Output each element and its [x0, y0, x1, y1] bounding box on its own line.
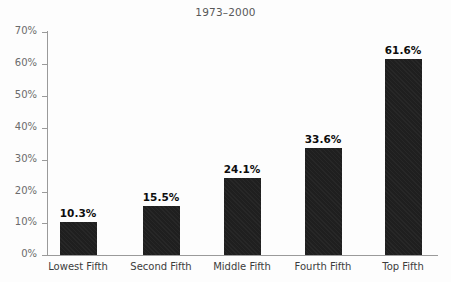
y-tick-mark-30 [42, 160, 47, 161]
bar-chart: 1973–2000 70% 60% 50% 40% 30% 20% 10% 0%… [0, 0, 451, 282]
category-label-top-fifth: Top Fifth [355, 261, 451, 272]
y-tick-mark-0 [42, 255, 47, 256]
y-tick-mark-10 [42, 223, 47, 224]
y-tick-mark-50 [42, 96, 47, 97]
y-tick-label-0: 0% [3, 248, 37, 259]
bar-second-fifth [143, 206, 180, 255]
y-tick-mark-70 [42, 32, 47, 33]
chart-title: 1973–2000 [0, 6, 451, 18]
bar-middle-fifth [224, 178, 261, 255]
y-tick-mark-40 [42, 128, 47, 129]
bar-top-fifth [385, 59, 422, 255]
bar-lowest-fifth [60, 222, 97, 255]
y-tick-label-50: 50% [3, 89, 37, 100]
bar-value-lowest-fifth: 10.3% [43, 207, 113, 219]
y-tick-label-20: 20% [3, 185, 37, 196]
y-tick-mark-20 [42, 192, 47, 193]
bar-value-top-fifth: 61.6% [368, 44, 438, 56]
bar-value-fourth-fifth: 33.6% [288, 133, 358, 145]
y-tick-mark-60 [42, 64, 47, 65]
y-tick-label-60: 60% [3, 57, 37, 68]
y-axis-line [47, 31, 48, 256]
x-axis-line [47, 255, 438, 256]
y-tick-label-40: 40% [3, 121, 37, 132]
y-tick-label-30: 30% [3, 153, 37, 164]
y-tick-label-70: 70% [3, 25, 37, 36]
bar-value-middle-fifth: 24.1% [207, 163, 277, 175]
y-tick-label-10: 10% [3, 216, 37, 227]
bar-fourth-fifth [305, 148, 342, 255]
category-label-lowest-fifth: Lowest Fifth [30, 261, 126, 272]
bar-value-second-fifth: 15.5% [126, 191, 196, 203]
